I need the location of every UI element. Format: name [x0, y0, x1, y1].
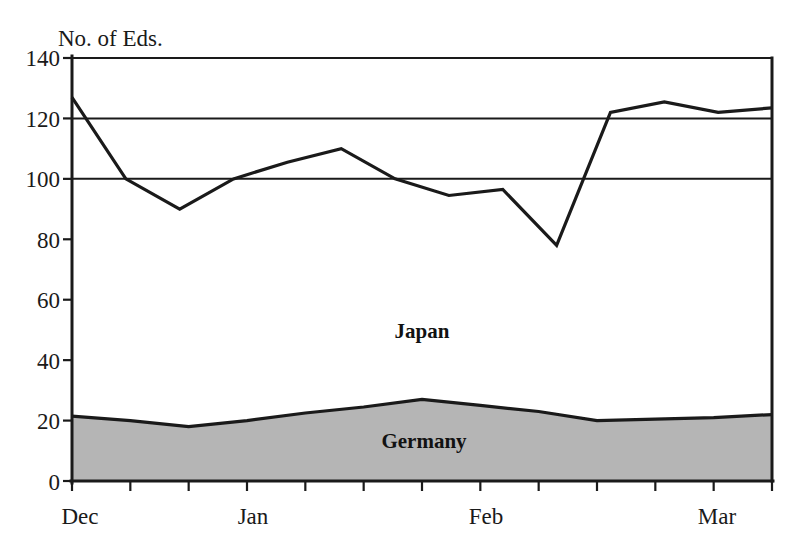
germany-series-label: Germany [381, 429, 467, 453]
x-tick-label-dec: Dec [61, 504, 98, 529]
y-tick-label-100: 100 [26, 167, 61, 192]
y-tick-label-40: 40 [37, 349, 60, 374]
chart-container: 140 120 100 80 60 40 20 0 Dec Jan Feb Ma… [0, 0, 798, 550]
y-tick-label-0: 0 [49, 470, 61, 495]
y-tick-label-60: 60 [37, 288, 60, 313]
y-tick-label-140: 140 [26, 46, 61, 71]
x-tick-label-jan: Jan [238, 504, 269, 529]
x-tick-label-mar: Mar [698, 504, 737, 529]
gridlines-group [72, 58, 772, 179]
japan-total-line [72, 97, 772, 245]
japan-series-label: Japan [395, 319, 450, 343]
y-tick-label-80: 80 [37, 228, 60, 253]
y-axis-title: No. of Eds. [58, 26, 163, 51]
y-tick-label-20: 20 [37, 409, 60, 434]
x-tick-label-feb: Feb [469, 504, 504, 529]
area-chart: 140 120 100 80 60 40 20 0 Dec Jan Feb Ma… [0, 0, 798, 550]
y-tick-label-120: 120 [26, 107, 61, 132]
